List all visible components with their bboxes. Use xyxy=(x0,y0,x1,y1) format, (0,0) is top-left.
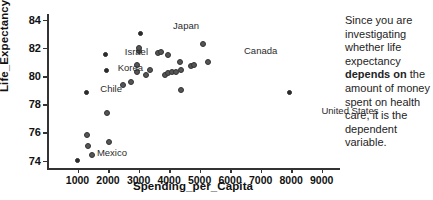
y-tick-label: 80 xyxy=(29,71,41,82)
data-point xyxy=(158,49,164,55)
y-tick xyxy=(43,48,47,50)
y-tick-label: 82 xyxy=(29,42,41,53)
scatter-plot-figure: Life_Expectancy Spending_per_Capita 7476… xyxy=(0,0,433,200)
data-point xyxy=(287,90,292,95)
y-tick-label: 76 xyxy=(29,127,41,138)
data-point xyxy=(89,152,95,158)
y-tick-label: 74 xyxy=(29,155,41,166)
x-tick xyxy=(261,169,263,173)
x-tick xyxy=(139,169,141,173)
y-axis-line xyxy=(47,14,49,169)
y-tick xyxy=(43,104,47,106)
x-tick-label: 7000 xyxy=(249,175,272,186)
x-tick-label: 3000 xyxy=(127,175,150,186)
x-tick xyxy=(322,169,324,173)
data-point xyxy=(147,67,153,73)
data-point xyxy=(177,59,183,65)
side-note-part1: Since you are investigating whether life… xyxy=(345,14,412,67)
y-tick xyxy=(43,161,47,163)
data-point xyxy=(178,67,184,73)
x-tick xyxy=(291,169,293,173)
data-point xyxy=(191,62,197,68)
plot-area: 747678808284 100020003000400050006000700… xyxy=(47,14,340,169)
point-label: Korea xyxy=(118,63,143,73)
y-tick-label: 78 xyxy=(29,99,41,110)
y-tick xyxy=(43,132,47,134)
y-tick xyxy=(43,76,47,78)
x-tick-label: 4000 xyxy=(157,175,180,186)
data-point xyxy=(104,68,109,73)
data-point xyxy=(84,132,90,138)
y-tick-label: 84 xyxy=(29,14,41,25)
x-tick-label: 8000 xyxy=(279,175,302,186)
x-tick xyxy=(78,169,80,173)
data-point xyxy=(75,158,80,163)
x-tick-label: 6000 xyxy=(218,175,241,186)
point-label: Canada xyxy=(244,46,277,56)
x-tick-label: 5000 xyxy=(188,175,211,186)
x-tick-label: 2000 xyxy=(96,175,119,186)
data-point xyxy=(205,59,211,65)
data-point xyxy=(165,52,171,58)
data-point xyxy=(84,90,89,95)
x-tick-label: 1000 xyxy=(66,175,89,186)
data-point xyxy=(178,87,184,93)
data-point xyxy=(138,31,143,36)
x-tick-label: 9000 xyxy=(310,175,333,186)
y-axis-title: Life_Expectancy xyxy=(0,0,10,92)
data-point xyxy=(128,79,134,85)
data-point xyxy=(200,41,206,47)
x-tick xyxy=(169,169,171,173)
side-note: Since you are investigating whether life… xyxy=(345,14,431,150)
x-tick xyxy=(200,169,202,173)
point-label: Japan xyxy=(173,21,199,31)
x-axis-line xyxy=(47,168,340,170)
side-note-emphasis: depends on xyxy=(345,68,407,80)
data-point xyxy=(104,110,110,116)
data-point xyxy=(106,139,112,145)
point-label: Chile xyxy=(100,84,122,94)
point-label: Israel xyxy=(125,47,148,57)
x-tick xyxy=(230,169,232,173)
data-point xyxy=(85,143,91,149)
x-tick xyxy=(108,169,110,173)
data-point xyxy=(103,52,108,57)
y-tick xyxy=(43,20,47,22)
point-label: Mexico xyxy=(97,148,127,158)
